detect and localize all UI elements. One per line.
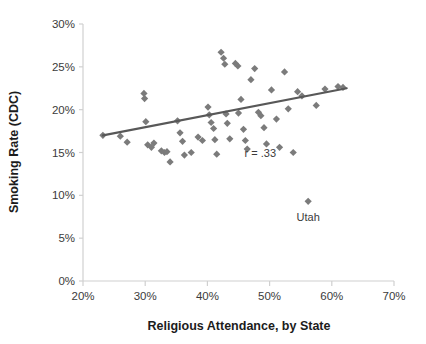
utah-point-label: Utah (297, 211, 320, 223)
y-tick-label-30: 30% (52, 18, 75, 30)
x-axis-title: Religious Attendance, by State (148, 319, 331, 333)
data-point (176, 129, 183, 136)
data-point (221, 61, 228, 68)
data-point (281, 68, 288, 75)
y-tick-label-20: 20% (52, 104, 75, 116)
data-point (181, 151, 188, 158)
x-tick-label-20: 20% (71, 290, 94, 302)
chart-annotations: r = .33Utah (245, 147, 320, 223)
x-tick-label-50: 50% (258, 290, 281, 302)
x-tick-label-30: 30% (134, 290, 157, 302)
y-tick-label-10: 10% (52, 189, 75, 201)
data-point (204, 104, 211, 111)
x-tick-label-40: 40% (196, 290, 219, 302)
data-point (242, 137, 249, 144)
y-tick-label-15: 15% (52, 147, 75, 159)
data-point (260, 124, 267, 131)
trend-line (103, 88, 347, 135)
x-tick-label-60: 60% (320, 290, 343, 302)
data-point (142, 118, 149, 125)
data-point (213, 151, 220, 158)
data-point (268, 86, 275, 93)
y-axis-title: Smoking Rate (CDC) (7, 91, 21, 213)
data-point (276, 144, 283, 151)
data-point (237, 96, 244, 103)
x-axis-tick-labels: 20%30%40%50%60%70% (71, 290, 405, 302)
y-axis-tick-labels: 0%5%10%15%20%25%30% (52, 18, 75, 287)
data-point (251, 65, 258, 72)
data-point (224, 120, 231, 127)
data-point (240, 126, 247, 133)
data-point (226, 135, 233, 142)
data-point (124, 139, 131, 146)
data-point (188, 149, 195, 156)
data-point (211, 136, 218, 143)
data-point (273, 115, 280, 122)
axis-lines (83, 24, 394, 281)
data-point (117, 133, 124, 140)
data-point (166, 158, 173, 165)
scatter-chart: 0%5%10%15%20%25%30% 20%30%40%50%60%70% r… (0, 0, 426, 344)
data-point (313, 102, 320, 109)
data-point (141, 95, 148, 102)
y-tick-label-0: 0% (58, 275, 75, 287)
x-axis-ticks (83, 281, 394, 286)
correlation-annotation: r = .33 (245, 147, 277, 159)
data-point (179, 138, 186, 145)
chart-canvas: 0%5%10%15%20%25%30% 20%30%40%50%60%70% r… (0, 0, 426, 344)
data-point (290, 149, 297, 156)
data-point-series (99, 49, 346, 205)
data-point (305, 198, 312, 205)
x-tick-label-70: 70% (382, 290, 405, 302)
y-tick-label-25: 25% (52, 61, 75, 73)
data-point (247, 76, 254, 83)
data-point (285, 105, 292, 112)
y-tick-label-5: 5% (58, 232, 75, 244)
